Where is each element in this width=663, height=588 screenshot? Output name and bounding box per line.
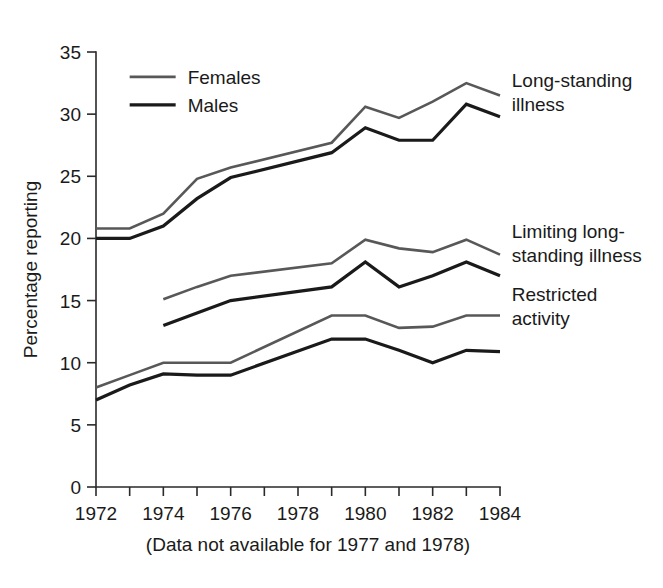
y-tick-label: 30 — [60, 104, 81, 125]
y-tick-label: 20 — [60, 228, 81, 249]
x-tick-label: 1976 — [210, 503, 252, 524]
x-tick-label: 1974 — [142, 503, 185, 524]
data-availability-note: (Data not available for 1977 and 1978) — [146, 534, 470, 555]
series-label-restricted-activity: activity — [512, 308, 571, 329]
y-tick-label: 10 — [60, 353, 81, 374]
legend-label-females: Females — [188, 67, 261, 88]
chart-figure: 0510152025303519721974197619781980198219… — [0, 0, 663, 588]
y-tick-label: 25 — [60, 166, 81, 187]
y-axis-title: Percentage reporting — [20, 181, 41, 358]
x-tick-label: 1984 — [479, 503, 522, 524]
y-tick-label: 5 — [70, 415, 81, 436]
series-label-long-standing-illness: Long-standing — [512, 70, 632, 91]
y-tick-label: 0 — [70, 477, 81, 498]
y-tick-label: 15 — [60, 291, 81, 312]
series-label-limiting-long-standing-illness: Limiting long- — [512, 221, 625, 242]
legend-label-males: Males — [188, 95, 239, 116]
x-tick-label: 1978 — [277, 503, 319, 524]
x-tick-label: 1980 — [344, 503, 386, 524]
series-label-long-standing-illness: illness — [512, 94, 565, 115]
series-label-limiting-long-standing-illness: standing illness — [512, 245, 642, 266]
series-label-restricted-activity: Restricted — [512, 284, 598, 305]
x-tick-label: 1982 — [412, 503, 454, 524]
x-tick-label: 1972 — [75, 503, 117, 524]
y-tick-label: 35 — [60, 42, 81, 63]
